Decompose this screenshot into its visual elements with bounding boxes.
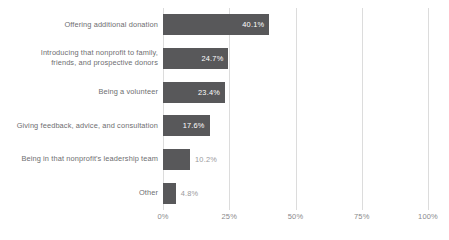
bar-value-label: 23.4% — [198, 88, 225, 97]
category-label: Introducing that nonprofit to family,fri… — [6, 48, 158, 68]
bar[interactable] — [163, 183, 176, 204]
bar-container: 23.4% — [163, 75, 225, 109]
bar-value-label: 4.8% — [176, 189, 199, 198]
bar-chart: Offering additional donation40.1%Introdu… — [0, 0, 449, 240]
x-tick-label: 75% — [354, 212, 370, 221]
category-label-line: Introducing that nonprofit to family, — [6, 48, 158, 58]
bar-row: Other4.8% — [0, 176, 449, 210]
bar-row: Being a volunteer23.4% — [0, 75, 449, 109]
bar-container: 40.1% — [163, 8, 269, 42]
bar-container: 4.8% — [163, 176, 198, 210]
bar-row: Offering additional donation40.1% — [0, 8, 449, 42]
category-label: Offering additional donation — [6, 20, 158, 30]
bar[interactable]: 23.4% — [163, 82, 225, 103]
category-label-line: Giving feedback, advice, and consultatio… — [6, 121, 158, 131]
bar-row: Introducing that nonprofit to family,fri… — [0, 42, 449, 76]
bar[interactable] — [163, 149, 190, 170]
x-tick-label: 25% — [221, 212, 237, 221]
bar[interactable]: 24.7% — [163, 48, 228, 69]
bar-value-label: 17.6% — [183, 121, 210, 130]
bar-container: 17.6% — [163, 109, 210, 143]
bar-value-label: 40.1% — [242, 20, 269, 29]
category-label-line: Being a volunteer — [6, 87, 158, 97]
x-tick-label: 0% — [157, 212, 168, 221]
bar-container: 24.7% — [163, 42, 228, 76]
bar-value-label: 24.7% — [201, 54, 228, 63]
bar-row: Being in that nonprofit's leadership tea… — [0, 143, 449, 177]
bar-container: 10.2% — [163, 143, 217, 177]
x-tick-label: 50% — [288, 212, 304, 221]
bar[interactable]: 40.1% — [163, 14, 269, 35]
bar-row: Giving feedback, advice, and consultatio… — [0, 109, 449, 143]
bar[interactable]: 17.6% — [163, 115, 210, 136]
x-tick-label: 100% — [418, 212, 438, 221]
x-axis-tick-labels: 0%25%50%75%100% — [163, 212, 428, 228]
category-label: Being in that nonprofit's leadership tea… — [6, 154, 158, 164]
category-label-line: Being in that nonprofit's leadership tea… — [6, 154, 158, 164]
category-label: Other — [6, 188, 158, 198]
category-label: Giving feedback, advice, and consultatio… — [6, 121, 158, 131]
bar-rows: Offering additional donation40.1%Introdu… — [0, 8, 449, 210]
category-label-line: Offering additional donation — [6, 20, 158, 30]
category-label: Being a volunteer — [6, 87, 158, 97]
category-label-line: friends, and prospective donors — [6, 58, 158, 68]
bar-value-label: 10.2% — [190, 155, 217, 164]
category-label-line: Other — [6, 188, 158, 198]
